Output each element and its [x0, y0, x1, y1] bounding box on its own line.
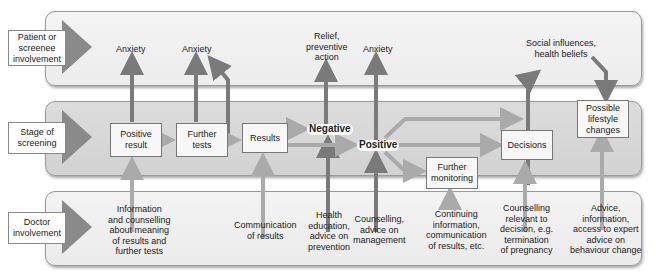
label-counselling-decision: Counselling relevant to decision, e.g. t…	[500, 203, 553, 256]
label-anxiety-3: Anxiety	[363, 44, 393, 55]
screening-diagram: Patient or screenee involvement Stage of…	[0, 0, 655, 272]
label-health-education: Health education, advice on prevention	[308, 210, 350, 252]
box-further-tests: Further tests	[176, 123, 228, 157]
label-continuing-information: Continuing information, communication of…	[426, 209, 487, 251]
label-advice-information: Advice, information, access to expert ad…	[570, 203, 642, 256]
label-communication: Communication of results	[234, 220, 297, 241]
box-further-monitoring: Further monitoring	[426, 157, 478, 189]
label-counselling-management: Counselling, advice on management	[353, 214, 406, 246]
label-anxiety-2: Anxiety	[182, 44, 212, 55]
box-positive-result: Positive result	[110, 123, 162, 157]
label-positive: Positive	[357, 140, 399, 151]
box-decisions: Decisions	[501, 130, 553, 160]
box-results: Results	[242, 123, 288, 153]
label-negative: Negative	[307, 124, 353, 135]
label-relief: Relief, preventive action	[306, 31, 348, 63]
label-information-counselling: Information and counselling about meanin…	[108, 204, 171, 257]
box-lifestyle-changes: Possible lifestyle changes	[577, 100, 629, 138]
label-anxiety-1: Anxiety	[116, 44, 146, 55]
label-social-influences: Social influences, health beliefs	[526, 38, 596, 59]
